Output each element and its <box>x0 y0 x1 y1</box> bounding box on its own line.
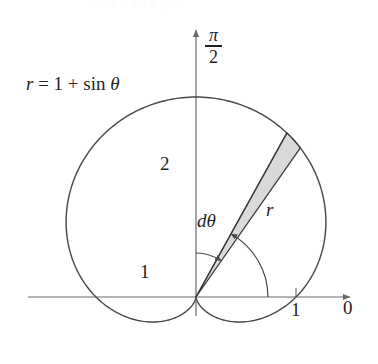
value-label-two: 2 <box>160 154 170 173</box>
dtheta-label: dθ <box>197 211 216 230</box>
polar-axis-zero-label: 0 <box>343 298 353 317</box>
equation-sine: sin <box>83 73 105 94</box>
curve-equation-label: r = 1 + sin θ <box>26 74 120 93</box>
vertical-axis-pi-over-two-label: π 2 <box>205 26 222 66</box>
value-label-one-axis: 1 <box>291 300 301 319</box>
pi-numerator: π <box>206 26 221 45</box>
polar-cardioid-figure: r = 1 + sin θ , the r = 1 + sin θ π 2 2 … <box>0 0 378 364</box>
equation-theta: θ <box>106 73 120 94</box>
figure-canvas <box>0 0 378 364</box>
value-label-one-left: 1 <box>140 262 150 281</box>
equation-operator: = 1 + <box>33 73 83 94</box>
two-denominator: 2 <box>206 47 221 66</box>
radius-label: r <box>266 200 273 219</box>
cropped-caption-text: r = 1 + sin θ , the <box>92 0 183 8</box>
cardioid-curve <box>58 145 296 351</box>
